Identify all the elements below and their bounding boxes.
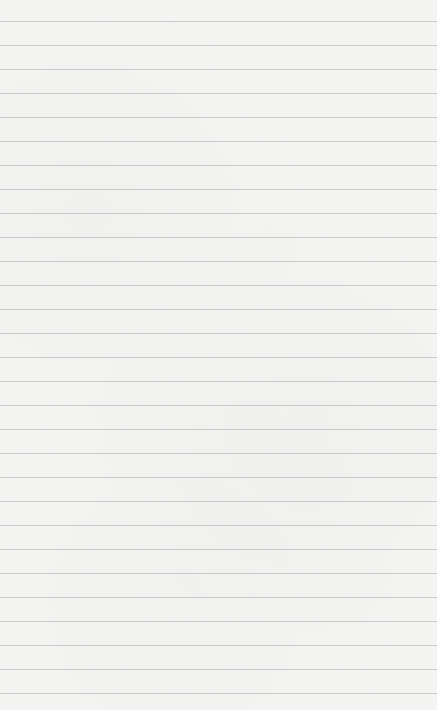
ruled-line [0, 477, 437, 478]
ruled-line [0, 573, 437, 574]
ruled-line [0, 309, 437, 310]
ruled-line [0, 453, 437, 454]
ruled-line [0, 285, 437, 286]
ruled-line [0, 69, 437, 70]
ruled-line [0, 93, 437, 94]
ruled-line [0, 21, 437, 22]
ruled-line [0, 141, 437, 142]
ruled-line [0, 213, 437, 214]
lined-paper: Lined paper texture [0, 0, 437, 710]
ruled-line [0, 501, 437, 502]
ruled-line [0, 333, 437, 334]
ruled-line [0, 45, 437, 46]
ruled-line [0, 165, 437, 166]
ruled-line [0, 549, 437, 550]
ruled-line [0, 381, 437, 382]
ruled-line [0, 189, 437, 190]
ruled-line [0, 405, 437, 406]
ruled-line [0, 621, 437, 622]
ruled-line [0, 357, 437, 358]
ruled-line [0, 525, 437, 526]
ruled-line [0, 693, 437, 694]
ruled-line [0, 645, 437, 646]
ruled-line [0, 669, 437, 670]
ruled-line [0, 117, 437, 118]
ruled-line [0, 597, 437, 598]
ruled-line [0, 237, 437, 238]
ruled-line [0, 429, 437, 430]
ruled-line [0, 261, 437, 262]
